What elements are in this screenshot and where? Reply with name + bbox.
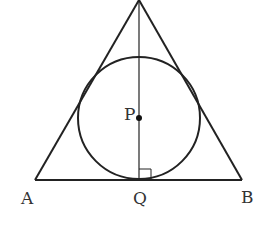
- side-apex-a: [35, 0, 139, 180]
- point-p: [136, 115, 142, 121]
- label-a: A: [20, 188, 34, 208]
- side-apex-b: [139, 0, 242, 180]
- geometry-diagram: P A Q B: [0, 0, 276, 226]
- label-b: B: [241, 187, 254, 207]
- label-q: Q: [133, 188, 147, 208]
- label-p: P: [124, 104, 135, 124]
